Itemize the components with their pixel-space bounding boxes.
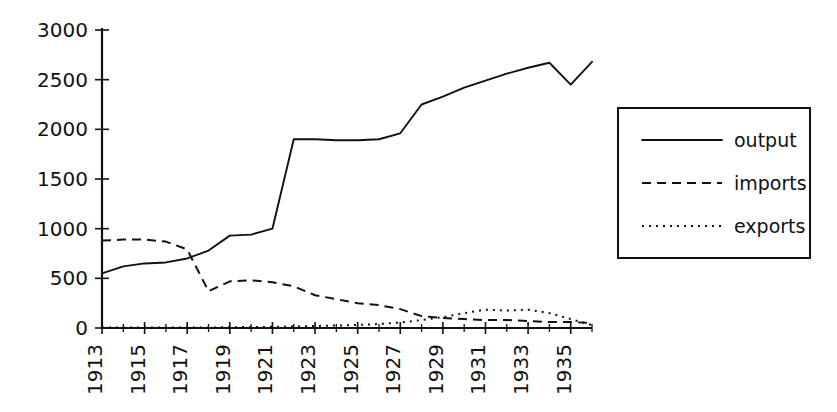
legend-label-output: output: [734, 129, 797, 151]
y-tick-label: 2500: [37, 68, 88, 92]
x-tick-label: 1921: [253, 344, 277, 395]
x-tick-label: 1931: [466, 344, 490, 395]
y-tick-label: 0: [75, 316, 88, 340]
x-tick-label: 1935: [552, 344, 576, 395]
y-tick-label: 3000: [37, 18, 88, 42]
line-chart-plot: 050010001500200025003000 191319151917191…: [0, 0, 837, 412]
chart-legend: outputimportsexports: [618, 108, 810, 258]
x-tick-label: 1919: [211, 344, 235, 395]
x-tick-label: 1917: [168, 344, 192, 395]
x-tick-label: 1923: [296, 344, 320, 395]
y-tick-label: 1500: [37, 167, 88, 191]
x-tick-label: 1927: [381, 344, 405, 395]
y-axis-tick-labels: 050010001500200025003000: [37, 18, 88, 340]
y-tick-label: 500: [50, 266, 88, 290]
y-tick-label: 2000: [37, 117, 88, 141]
chart-figure: 050010001500200025003000 191319151917191…: [0, 0, 837, 412]
x-tick-label: 1915: [126, 344, 150, 395]
x-tick-label: 1929: [424, 344, 448, 395]
x-tick-label: 1933: [509, 344, 533, 395]
series-line-imports: [102, 240, 592, 323]
x-axis-tick-labels: 1913191519171919192119231925192719291931…: [83, 344, 576, 395]
legend-label-imports: imports: [734, 172, 807, 194]
series-line-exports: [102, 310, 592, 328]
y-tick-label: 1000: [37, 217, 88, 241]
legend-label-exports: exports: [734, 215, 805, 237]
x-tick-label: 1925: [339, 344, 363, 395]
x-tick-label: 1913: [83, 344, 107, 395]
series-line-output: [102, 62, 592, 274]
